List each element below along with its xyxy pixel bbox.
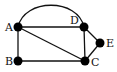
graph-diagram: A B C D E — [0, 0, 117, 72]
label-c: C — [91, 56, 99, 69]
node-d — [80, 23, 89, 32]
node-a — [14, 23, 23, 32]
label-d: D — [70, 14, 79, 27]
label-e: E — [106, 37, 114, 50]
node-c — [81, 57, 90, 66]
label-a: A — [4, 21, 14, 34]
label-b: B — [5, 55, 13, 68]
node-e — [96, 39, 105, 48]
node-b — [14, 57, 23, 66]
edge-a-c — [18, 27, 85, 61]
edge-d-c — [84, 27, 85, 61]
